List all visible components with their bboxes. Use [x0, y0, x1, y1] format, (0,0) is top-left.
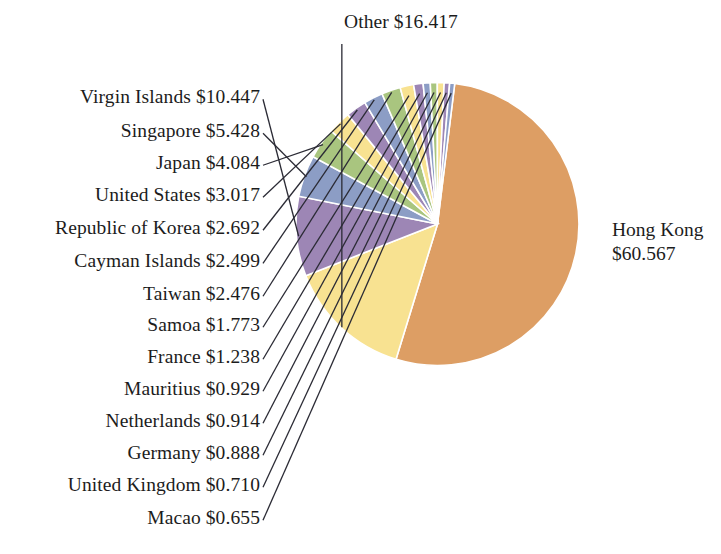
slice-label-mauritius: Mauritius $0.929 — [124, 377, 260, 400]
slice-label-singapore-text: Singapore $5.428 — [121, 120, 260, 141]
slice-label-france-text: France $1.238 — [147, 346, 260, 367]
slice-label-macao: Macao $0.655 — [147, 506, 260, 529]
slice-label-virgin-islands: Virgin Islands $10.447 — [80, 85, 260, 108]
slice-label-united-states-text: United States $3.017 — [95, 184, 260, 205]
slice-label-taiwan: Taiwan $2.476 — [143, 282, 260, 305]
slice-label-japan: Japan $4.084 — [156, 151, 260, 174]
slice-label-united-kingdom: United Kingdom $0.710 — [68, 473, 260, 496]
slice-label-cayman-islands: Cayman Islands $2.499 — [74, 249, 260, 272]
slice-label-netherlands: Netherlands $0.914 — [105, 409, 260, 432]
slice-label-united-kingdom-text: United Kingdom $0.710 — [68, 474, 260, 495]
slice-label-united-states: United States $3.017 — [95, 183, 260, 206]
slice-label-republic-of-korea-text: Republic of Korea $2.692 — [55, 217, 260, 238]
slice-label-japan-text: Japan $4.084 — [156, 152, 260, 173]
slice-label-virgin-islands-text: Virgin Islands $10.447 — [80, 86, 260, 107]
slice-label-mauritius-text: Mauritius $0.929 — [124, 378, 260, 399]
slice-label-germany-text: Germany $0.888 — [128, 442, 260, 463]
pie-chart-svg — [0, 0, 721, 554]
slice-label-singapore: Singapore $5.428 — [121, 119, 260, 142]
slice-label-macao-text: Macao $0.655 — [147, 507, 260, 528]
slice-label-netherlands-text: Netherlands $0.914 — [105, 410, 260, 431]
slice-label-cayman-islands-text: Cayman Islands $2.499 — [74, 250, 260, 271]
slice-label-hong-kong: Hong Kong $60.567 — [612, 218, 704, 266]
slice-label-france: France $1.238 — [147, 345, 260, 368]
slice-label-hong-kong-value: $60.567 — [612, 242, 704, 266]
slice-label-germany: Germany $0.888 — [128, 441, 260, 464]
leader-line-singapore — [263, 133, 306, 176]
slice-label-samoa: Samoa $1.773 — [147, 313, 260, 336]
slice-label-other-text: Other $16.417 — [344, 11, 458, 32]
slice-label-republic-of-korea: Republic of Korea $2.692 — [55, 216, 260, 239]
slice-label-taiwan-text: Taiwan $2.476 — [143, 283, 260, 304]
slice-label-other: Other $16.417 — [344, 10, 458, 33]
pie-chart-figure: Hong Kong $60.567 Other $16.417 Virgin I… — [0, 0, 721, 554]
slice-label-samoa-text: Samoa $1.773 — [147, 314, 260, 335]
slice-label-hong-kong-name: Hong Kong — [612, 218, 704, 242]
